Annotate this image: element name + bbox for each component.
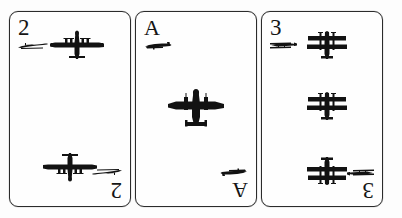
- biplane-side-icon: [343, 166, 375, 179]
- card-row: 2: [0, 0, 402, 218]
- biplane-top-icon: [306, 28, 348, 64]
- four-engine-bomber-top-icon: [49, 28, 105, 64]
- rank-label: 3: [363, 180, 376, 201]
- rank-label: A: [232, 180, 249, 201]
- biplane-top-icon: [306, 89, 348, 125]
- playing-card-two[interactable]: 2: [9, 11, 131, 207]
- corner-index-bottom-right: A: [215, 166, 249, 201]
- corner-index-bottom-right: 2: [89, 166, 123, 201]
- playing-cards-scene: 2: [0, 0, 402, 218]
- corner-index-bottom-right: 3: [341, 166, 375, 201]
- playing-card-three[interactable]: 3: [261, 11, 383, 207]
- rank-label: 2: [111, 180, 124, 201]
- twin-engine-bomber-top-icon: [165, 85, 227, 133]
- playing-card-ace[interactable]: A: [135, 11, 257, 207]
- bomber-side-icon: [91, 166, 123, 179]
- fighter-side-icon: [217, 166, 249, 179]
